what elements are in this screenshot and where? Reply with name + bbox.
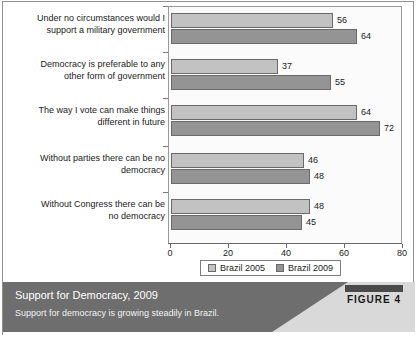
figure-badge-rule	[345, 285, 403, 292]
legend-swatch-icon	[276, 264, 284, 272]
chart-region: Under no circumstances would Isupport a …	[3, 2, 415, 282]
bar	[171, 13, 333, 28]
bar-value-label: 64	[361, 105, 371, 120]
legend-label: Brazil 2005	[220, 263, 265, 273]
bar-value-label: 46	[308, 153, 318, 168]
bar-value-label: 48	[314, 199, 324, 214]
bar	[171, 29, 357, 44]
figure-badge-label: FIGURE 4	[343, 294, 405, 305]
group-separator-tick	[163, 52, 168, 53]
category-label-line: Without Congress there can be	[7, 199, 165, 211]
group-separator-tick	[163, 146, 168, 147]
caption-title: Support for Democracy, 2009	[15, 289, 158, 301]
bar	[171, 215, 302, 230]
category-label-line: different in future	[7, 117, 165, 129]
category-axis-labels: Under no circumstances would Isupport a …	[7, 6, 165, 244]
legend-label: Brazil 2009	[288, 263, 333, 273]
group-separator-tick	[163, 192, 168, 193]
bar-value-label: 45	[306, 215, 316, 230]
category-label: Without Congress there can beno democrac…	[7, 199, 165, 222]
category-label-line: democracy	[7, 165, 165, 177]
figure-badge: FIGURE 4	[343, 285, 405, 305]
bar	[171, 59, 278, 74]
bar	[171, 153, 304, 168]
bar-value-label: 55	[335, 75, 345, 90]
figure-container: Under no circumstances would Isupport a …	[0, 0, 418, 339]
bar-value-label: 48	[314, 169, 324, 184]
category-label: Without parties there can be nodemocracy	[7, 153, 165, 176]
category-label-line: Democracy is preferable to any	[7, 59, 165, 71]
category-label-line: other form of government	[7, 71, 165, 83]
bar-value-label: 64	[361, 29, 371, 44]
bar	[171, 75, 331, 90]
bar	[171, 169, 310, 184]
legend-item[interactable]: Brazil 2005	[208, 263, 265, 273]
category-label-line: Under no circumstances would I	[7, 13, 165, 25]
x-axis-tick-label: 80	[397, 248, 407, 258]
x-axis-tick-label: 0	[167, 248, 172, 258]
category-label: The way I vote can make thingsdifferent …	[7, 105, 165, 128]
group-separator-tick	[163, 6, 168, 7]
bar-value-label: 37	[282, 59, 292, 74]
x-axis-line	[168, 243, 402, 244]
caption-subtitle: Support for democracy is growing steadil…	[15, 308, 219, 318]
plot-area: 56376446486455724845	[168, 6, 402, 244]
bar-value-label: 72	[384, 121, 394, 136]
plot-inner: 56376446486455724845	[171, 7, 401, 243]
x-axis-tick-label: 20	[223, 248, 233, 258]
x-axis-tick-label: 40	[281, 248, 291, 258]
category-label-line: Without parties there can be no	[7, 153, 165, 165]
bar	[171, 199, 310, 214]
bar-value-label: 56	[337, 13, 347, 28]
bottom-strip	[3, 332, 415, 336]
category-label-line: The way I vote can make things	[7, 105, 165, 117]
legend-item[interactable]: Brazil 2009	[276, 263, 333, 273]
category-label: Democracy is preferable to anyother form…	[7, 59, 165, 82]
legend-swatch-icon	[208, 264, 216, 272]
bar	[171, 121, 380, 136]
chart-legend: Brazil 2005Brazil 2009	[200, 260, 341, 276]
group-separator-tick	[163, 98, 168, 99]
category-label: Under no circumstances would Isupport a …	[7, 13, 165, 36]
bar	[171, 105, 357, 120]
category-label-line: no democracy	[7, 211, 165, 223]
figure-card: Under no circumstances would Isupport a …	[2, 1, 414, 335]
x-axis-tick-label: 60	[339, 248, 349, 258]
category-label-line: support a military government	[7, 25, 165, 37]
